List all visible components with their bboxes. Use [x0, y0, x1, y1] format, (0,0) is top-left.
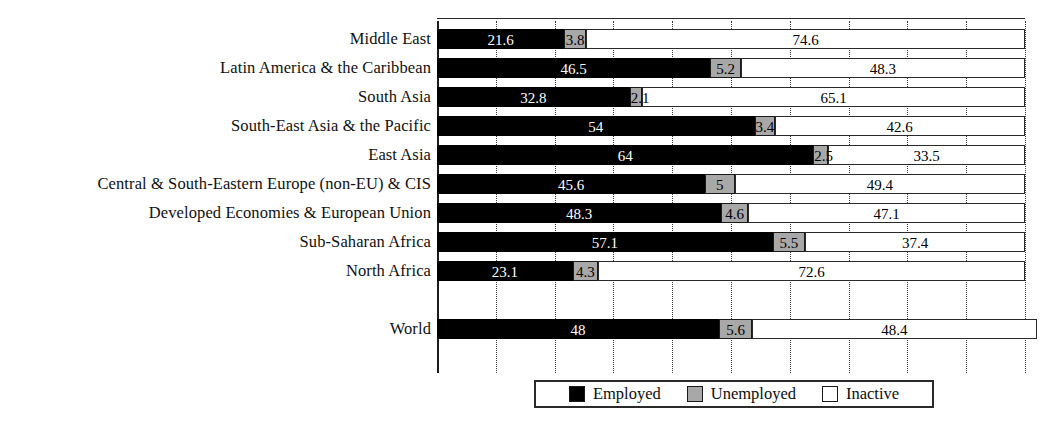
bar-segment-unemployed: 5.2	[710, 58, 741, 78]
legend-label-inactive: Inactive	[846, 385, 899, 403]
category-label: North Africa	[0, 261, 431, 281]
bar-value-label: 2.5	[814, 146, 827, 166]
category-label: South Asia	[0, 87, 431, 107]
bar-segment-employed: 48	[437, 319, 719, 339]
bar-row: 485.648.4	[437, 319, 1025, 339]
legend-label-employed: Employed	[593, 385, 661, 403]
legend-item-inactive: Inactive	[822, 385, 899, 403]
bar-segment-inactive: 48.4	[752, 319, 1037, 339]
category-axis-labels: Middle EastLatin America & the Caribbean…	[0, 0, 431, 437]
bar-segment-unemployed: 2.1	[630, 87, 642, 107]
bar-row: 32.82.165.1	[437, 87, 1025, 107]
bar-segment-employed: 21.6	[437, 29, 564, 49]
bar-segment-unemployed: 4.6	[721, 203, 748, 223]
category-label: Middle East	[0, 29, 431, 49]
bar-segment-unemployed: 5.6	[719, 319, 752, 339]
bar-value-label: 72.6	[599, 262, 1024, 282]
bar-value-label: 42.6	[776, 117, 1024, 137]
bar-row: 21.63.874.6	[437, 29, 1025, 49]
bar-segment-employed: 45.6	[437, 174, 705, 194]
bar-value-label: 32.8	[438, 88, 629, 108]
bar-segment-unemployed: 3.4	[755, 116, 775, 136]
bar-segment-inactive: 37.4	[805, 232, 1025, 252]
stacked-bar-chart: Middle EastLatin America & the Caribbean…	[0, 0, 1057, 437]
bar-value-label: 48.4	[753, 320, 1036, 340]
bar-row: 23.14.372.6	[437, 261, 1025, 281]
bar-value-label: 5.5	[774, 233, 804, 253]
plot-area: 21.63.874.646.55.248.332.82.165.1543.442…	[437, 21, 1025, 373]
bar-value-label: 49.4	[736, 175, 1024, 195]
bar-value-label: 74.6	[587, 30, 1024, 50]
bar-segment-unemployed: 2.5	[813, 145, 828, 165]
bar-segment-unemployed: 3.8	[564, 29, 586, 49]
bar-segment-unemployed: 4.3	[573, 261, 598, 281]
legend-swatch-unemployed-icon	[687, 386, 703, 402]
bar-value-label: 48	[438, 320, 718, 340]
chart-legend: Employed Unemployed Inactive	[534, 380, 934, 408]
bar-segment-inactive: 47.1	[748, 203, 1025, 223]
bar-value-label: 48.3	[438, 204, 720, 224]
bar-segment-inactive: 33.5	[828, 145, 1025, 165]
bar-segment-employed: 54	[437, 116, 755, 136]
category-label: East Asia	[0, 145, 431, 165]
bar-value-label: 4.6	[722, 204, 747, 224]
bar-segment-unemployed: 5.5	[773, 232, 805, 252]
bar-value-label: 37.4	[806, 233, 1024, 253]
bar-segment-inactive: 42.6	[775, 116, 1025, 136]
bar-value-label: 4.3	[574, 262, 597, 282]
bar-row: 45.6549.4	[437, 174, 1025, 194]
bar-value-label: 47.1	[749, 204, 1024, 224]
bar-value-label: 2.1	[631, 88, 641, 108]
bar-value-label: 57.1	[438, 233, 772, 253]
legend-item-unemployed: Unemployed	[687, 385, 796, 403]
bar-value-label: 21.6	[438, 30, 563, 50]
bar-segment-employed: 46.5	[437, 58, 710, 78]
bar-segment-employed: 57.1	[437, 232, 773, 252]
bar-row: 48.34.647.1	[437, 203, 1025, 223]
category-label: Latin America & the Caribbean	[0, 58, 431, 78]
bar-value-label: 46.5	[438, 59, 709, 79]
bar-segment-inactive: 49.4	[735, 174, 1025, 194]
bar-value-label: 3.4	[756, 117, 774, 137]
bar-row: 642.533.5	[437, 145, 1025, 165]
bar-segment-inactive: 65.1	[642, 87, 1025, 107]
plot-top-rule	[437, 18, 1025, 19]
bar-segment-inactive: 48.3	[741, 58, 1025, 78]
legend-swatch-inactive-icon	[822, 386, 838, 402]
legend-item-employed: Employed	[569, 385, 661, 403]
bar-row: 46.55.248.3	[437, 58, 1025, 78]
bar-segment-inactive: 72.6	[598, 261, 1025, 281]
bar-segment-inactive: 74.6	[586, 29, 1025, 49]
bar-value-label: 5.2	[711, 59, 740, 79]
bar-value-label: 5	[706, 175, 733, 195]
category-label: Developed Economies & European Union	[0, 203, 431, 223]
bar-row: 57.15.537.4	[437, 232, 1025, 252]
category-label: South-East Asia & the Pacific	[0, 116, 431, 136]
bar-value-label: 64	[438, 146, 812, 166]
bar-value-label: 48.3	[742, 59, 1024, 79]
category-label: World	[0, 319, 431, 339]
bar-segment-employed: 32.8	[437, 87, 630, 107]
bar-segment-unemployed: 5	[705, 174, 734, 194]
legend-swatch-employed-icon	[569, 386, 585, 402]
bar-value-label: 65.1	[643, 88, 1024, 108]
legend-label-unemployed: Unemployed	[711, 385, 796, 403]
bar-value-label: 45.6	[438, 175, 704, 195]
bar-segment-employed: 64	[437, 145, 813, 165]
bar-value-label: 54	[438, 117, 754, 137]
bar-value-label: 5.6	[720, 320, 751, 340]
category-label: Central & South-Eastern Europe (non-EU) …	[0, 174, 431, 194]
bar-value-label: 23.1	[438, 262, 572, 282]
bar-segment-employed: 48.3	[437, 203, 721, 223]
category-label: Sub-Saharan Africa	[0, 232, 431, 252]
bar-value-label: 3.8	[565, 30, 585, 50]
bar-row: 543.442.6	[437, 116, 1025, 136]
bar-segment-employed: 23.1	[437, 261, 573, 281]
bar-value-label: 33.5	[829, 146, 1024, 166]
